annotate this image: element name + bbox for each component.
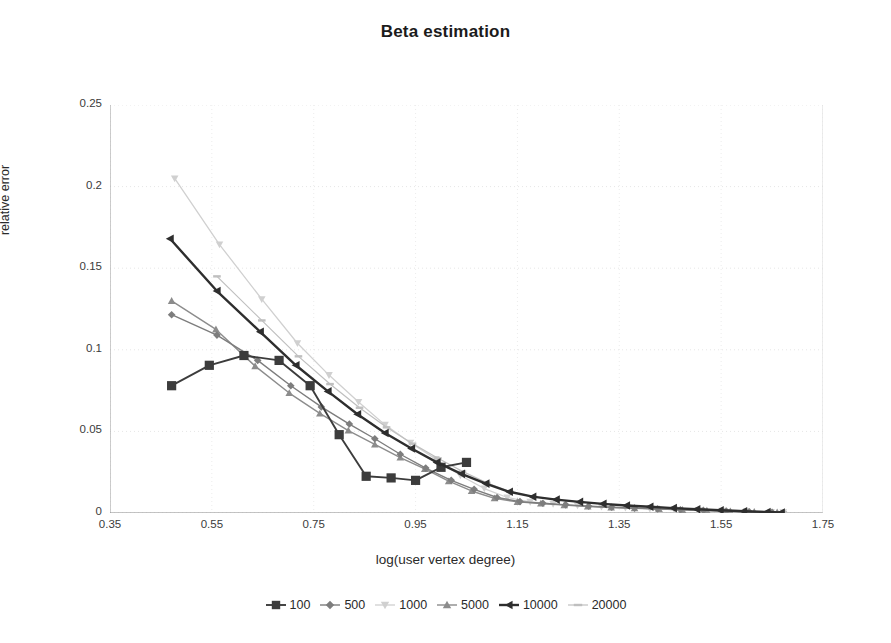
chart-container: Beta estimation relative error 00.050.10… bbox=[0, 0, 891, 643]
legend-marker-icon bbox=[567, 599, 589, 611]
legend-item-100[interactable]: 100 bbox=[265, 598, 311, 612]
plot-svg bbox=[110, 105, 823, 513]
y-tick-label: 0 bbox=[42, 505, 102, 517]
y-tick-label: 0.2 bbox=[42, 179, 102, 191]
x-tick-label: 0.55 bbox=[182, 518, 242, 530]
legend-label: 1000 bbox=[399, 598, 427, 612]
plot-area bbox=[110, 105, 823, 513]
legend-item-1000[interactable]: 1000 bbox=[374, 598, 427, 612]
x-tick-label: 1.55 bbox=[691, 518, 751, 530]
y-axis-title: relative error bbox=[0, 120, 12, 280]
series-5000 bbox=[168, 297, 781, 513]
legend-marker-icon bbox=[265, 599, 287, 611]
legend-label: 20000 bbox=[592, 598, 627, 612]
x-tick-label: 1.75 bbox=[793, 518, 853, 530]
y-tick-label: 0.25 bbox=[42, 97, 102, 109]
legend-item-5000[interactable]: 5000 bbox=[436, 598, 489, 612]
axis-lines bbox=[110, 105, 823, 513]
legend-marker-icon bbox=[498, 599, 520, 611]
legend-label: 100 bbox=[290, 598, 311, 612]
x-tick-label: 0.75 bbox=[284, 518, 344, 530]
chart-legend: 100500100050001000020000 bbox=[0, 598, 891, 612]
x-tick-label: 1.35 bbox=[589, 518, 649, 530]
legend-marker-icon bbox=[374, 599, 396, 611]
x-tick-label: 0.35 bbox=[80, 518, 140, 530]
x-tick-label: 1.15 bbox=[487, 518, 547, 530]
gridlines bbox=[110, 105, 823, 513]
y-tick-label: 0.15 bbox=[42, 260, 102, 272]
legend-item-20000[interactable]: 20000 bbox=[567, 598, 627, 612]
legend-marker-icon bbox=[319, 599, 341, 611]
legend-item-10000[interactable]: 10000 bbox=[498, 598, 558, 612]
series-500 bbox=[168, 311, 776, 513]
legend-label: 5000 bbox=[461, 598, 489, 612]
y-tick-label: 0.1 bbox=[42, 342, 102, 354]
chart-title: Beta estimation bbox=[0, 22, 891, 42]
series-20000 bbox=[213, 275, 787, 513]
x-tick-label: 0.95 bbox=[386, 518, 446, 530]
legend-item-500[interactable]: 500 bbox=[319, 598, 365, 612]
x-axis-title: log(user vertex degree) bbox=[0, 552, 891, 567]
series-10000 bbox=[166, 235, 785, 513]
series-1000 bbox=[171, 175, 787, 513]
legend-label: 500 bbox=[344, 598, 365, 612]
legend-marker-icon bbox=[436, 599, 458, 611]
legend-label: 10000 bbox=[523, 598, 558, 612]
y-tick-label: 0.05 bbox=[42, 423, 102, 435]
